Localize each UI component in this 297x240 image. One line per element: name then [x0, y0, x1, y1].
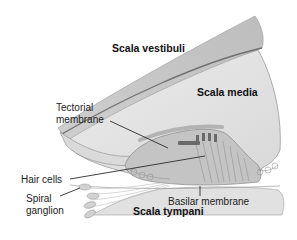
- label-tectorial-line2: membrane: [56, 114, 104, 125]
- label-scala-tympani: Scala tympani: [133, 206, 204, 217]
- label-spiral-line1: Spiral: [26, 193, 52, 204]
- label-scala-media: Scala media: [197, 87, 258, 98]
- label-hair-cells: Hair cells: [21, 174, 62, 185]
- label-scala-vestibuli: Scala vestibuli: [112, 43, 185, 54]
- label-spiral-line2: ganglion: [26, 205, 64, 216]
- spiral-leader: [60, 188, 80, 196]
- label-tectorial-line1: Tectorial: [56, 102, 93, 113]
